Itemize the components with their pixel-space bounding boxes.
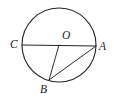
point-label-o: O	[62, 30, 70, 42]
point-label-a: A	[99, 41, 106, 53]
point-label-b: B	[40, 84, 47, 96]
circle-geometry-figure: C A O B	[0, 0, 116, 103]
point-label-c: C	[10, 39, 18, 51]
chord-b-a	[49, 46, 96, 80]
radius-o-b	[49, 45, 59, 80]
